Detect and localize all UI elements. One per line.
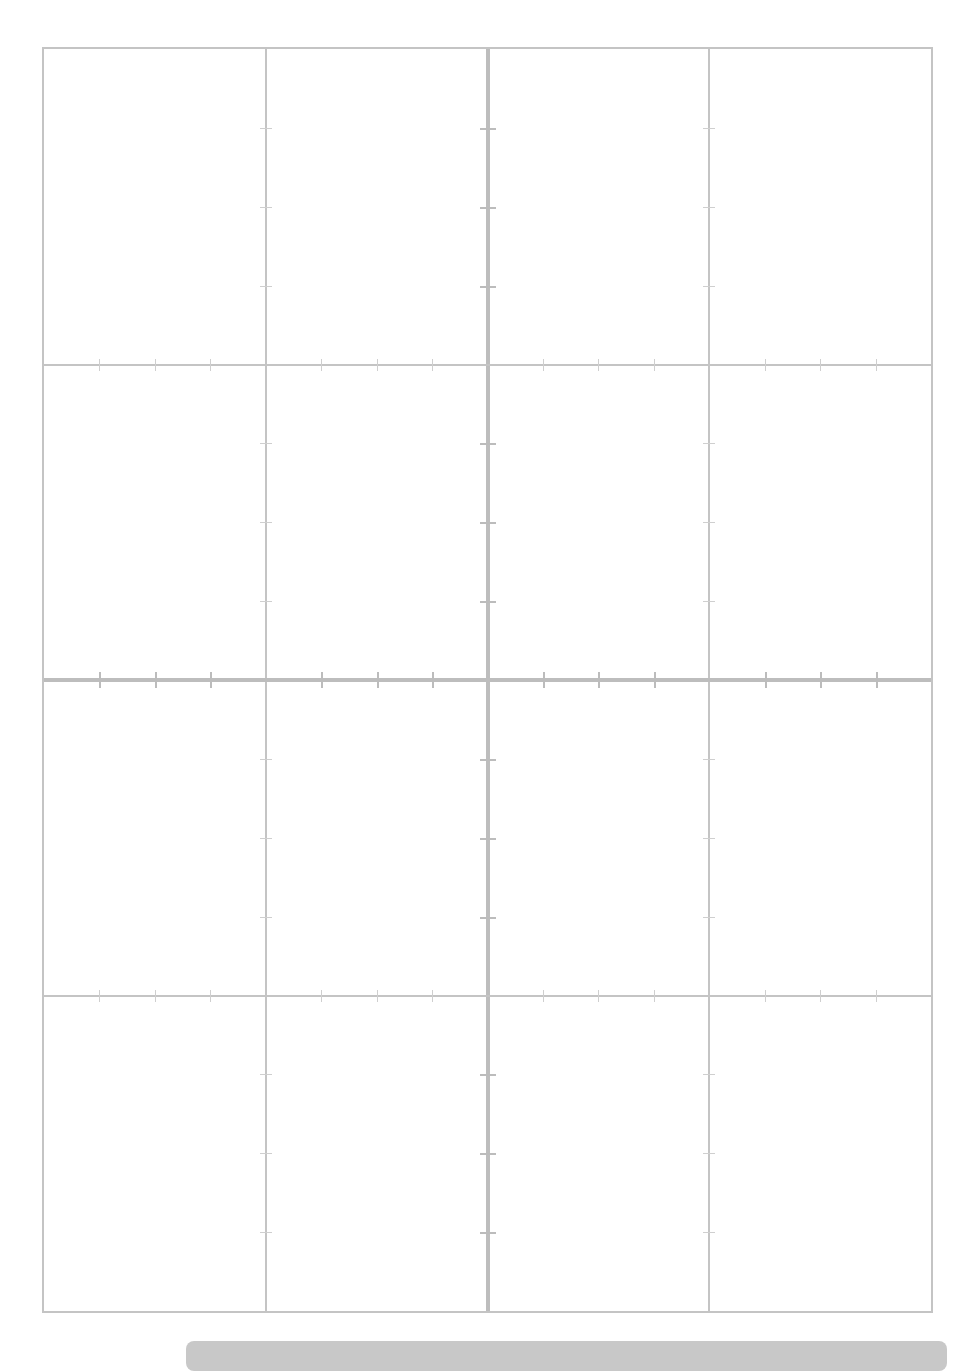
tick-mark: [260, 443, 272, 444]
tick-mark: [480, 759, 496, 761]
tick-mark: [480, 601, 496, 603]
tick-mark: [260, 601, 272, 602]
tick-mark: [703, 1074, 715, 1075]
tick-mark: [321, 359, 322, 371]
tick-mark: [321, 990, 322, 1002]
tick-mark: [480, 443, 496, 445]
tick-mark: [210, 672, 212, 688]
tick-mark: [260, 917, 272, 918]
tick-mark: [480, 207, 496, 209]
tick-mark: [543, 990, 544, 1002]
tick-mark: [543, 672, 545, 688]
tick-mark: [377, 672, 379, 688]
tick-mark: [377, 359, 378, 371]
tick-mark: [703, 601, 715, 602]
grid-cell: [266, 49, 488, 365]
tick-mark: [99, 359, 100, 371]
tick-mark: [260, 838, 272, 839]
tick-mark: [432, 990, 433, 1002]
tick-mark: [99, 990, 100, 1002]
tick-mark: [598, 359, 599, 371]
tick-mark: [820, 672, 822, 688]
grid-cell: [488, 365, 710, 681]
tick-mark: [703, 759, 715, 760]
grid-cell: [44, 49, 266, 365]
tick-mark: [260, 128, 272, 129]
tick-mark: [703, 522, 715, 523]
tick-mark: [432, 359, 433, 371]
tick-mark: [99, 672, 101, 688]
tick-mark: [260, 759, 272, 760]
tick-mark: [377, 990, 378, 1002]
tick-mark: [480, 1232, 496, 1234]
grid-cell: [44, 996, 266, 1312]
tick-mark: [876, 990, 877, 1002]
horizontal-grid-line: [44, 364, 931, 366]
tick-mark: [480, 1153, 496, 1155]
tick-mark: [876, 359, 877, 371]
grid-cell: [488, 996, 710, 1312]
grid-cell: [266, 680, 488, 996]
grid-sheet: [42, 47, 933, 1313]
tick-mark: [432, 672, 434, 688]
tick-mark: [543, 359, 544, 371]
tick-mark: [598, 990, 599, 1002]
tick-mark: [480, 1074, 496, 1076]
tick-mark: [765, 359, 766, 371]
tick-mark: [765, 672, 767, 688]
tick-mark: [210, 990, 211, 1002]
grid-cell: [266, 365, 488, 681]
tick-mark: [820, 990, 821, 1002]
grid-cell: [44, 680, 266, 996]
grid-cell: [709, 996, 931, 1312]
tick-mark: [260, 1153, 272, 1154]
tick-mark: [703, 1232, 715, 1233]
center-horizontal-line: [44, 678, 931, 682]
grid-cell: [488, 680, 710, 996]
tick-mark: [765, 990, 766, 1002]
horizontal-grid-line: [44, 995, 931, 997]
tick-mark: [654, 672, 656, 688]
tick-mark: [210, 359, 211, 371]
grid-cell: [488, 49, 710, 365]
tick-mark: [155, 359, 156, 371]
tick-mark: [703, 207, 715, 208]
tick-mark: [480, 522, 496, 524]
grid-cell: [266, 996, 488, 1312]
tick-mark: [260, 1232, 272, 1233]
tick-mark: [654, 359, 655, 371]
tick-mark: [703, 838, 715, 839]
tick-mark: [480, 838, 496, 840]
tick-mark: [260, 286, 272, 287]
tick-mark: [703, 1153, 715, 1154]
tick-mark: [876, 672, 878, 688]
tick-mark: [321, 672, 323, 688]
tick-mark: [703, 917, 715, 918]
tick-mark: [598, 672, 600, 688]
tick-mark: [260, 207, 272, 208]
grid-cell: [709, 680, 931, 996]
tick-mark: [654, 990, 655, 1002]
grid-cell: [709, 49, 931, 365]
bottom-bar: [186, 1341, 947, 1371]
grid-cell: [709, 365, 931, 681]
tick-mark: [155, 672, 157, 688]
tick-mark: [480, 917, 496, 919]
tick-mark: [703, 286, 715, 287]
tick-mark: [703, 443, 715, 444]
grid-cell: [44, 365, 266, 681]
tick-mark: [155, 990, 156, 1002]
tick-mark: [480, 128, 496, 130]
tick-mark: [480, 286, 496, 288]
tick-mark: [260, 522, 272, 523]
tick-mark: [820, 359, 821, 371]
tick-mark: [260, 1074, 272, 1075]
tick-mark: [703, 128, 715, 129]
